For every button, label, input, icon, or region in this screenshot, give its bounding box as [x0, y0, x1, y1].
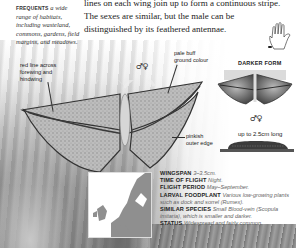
sex-symbol-darker: ♂♀ [250, 114, 261, 123]
leader-line-pinkish-edge [172, 137, 185, 138]
fact-row: SIMILAR SPECIES Small Blood-vein (Scopul… [160, 206, 296, 220]
fact-key: WINGSPAN [160, 170, 192, 176]
intro-line: The sexes are similar, but the male can … [84, 10, 296, 23]
fact-value: 3–3.5cm. [193, 170, 216, 176]
field-guide-page: lines on each wing join up to form a con… [0, 0, 296, 248]
fact-key: TIME OF FLIGHT [160, 177, 207, 183]
darker-form-moth-image [216, 64, 294, 114]
label-red-line: red line across forewing and hindwing [20, 62, 64, 82]
species-facts: WINGSPAN 3–3.5cm. TIME OF FLIGHT Night. … [160, 170, 296, 228]
fact-key: STATUS [160, 220, 182, 226]
fact-key: FLIGHT PERIOD [160, 184, 205, 190]
fact-value: May–September. [207, 184, 249, 190]
habitat-note: FREQUENTS a wide range of habitats, incl… [16, 4, 80, 47]
fact-value: Widespread and fairly common. [184, 220, 263, 226]
larva-image [220, 138, 294, 154]
intro-paragraph: lines on each wing join up to form a con… [84, 0, 296, 36]
fact-key: SIMILAR SPECIES [160, 206, 211, 212]
intro-line: distinguished by its feathered antennae. [84, 23, 296, 36]
fact-row: LARVAL FOODPLANT Various low-growing pla… [160, 192, 296, 206]
intro-line: lines on each wing join up to form a con… [84, 0, 296, 10]
sex-symbol-main: ♂♀ [136, 62, 147, 71]
fact-value: Night. [208, 177, 223, 183]
blood-vein-moth-image [20, 80, 205, 180]
label-pinkish-edge: pinkish outer edge [186, 133, 216, 147]
fact-row: FLIGHT PERIOD May–September. [160, 184, 296, 191]
fact-row: WINGSPAN 3–3.5cm. [160, 170, 296, 177]
europe-distribution-map [88, 172, 152, 238]
label-pale-buff: pale buff ground colour [174, 50, 214, 64]
fact-row: STATUS Widespread and fairly common. [160, 220, 296, 227]
scale-moth-marker [268, 46, 272, 48]
fact-key: LARVAL FOODPLANT [160, 192, 221, 198]
habitat-lead: FREQUENTS [16, 5, 49, 11]
larva-length-label: up to 2.5cm long [238, 131, 282, 137]
fact-row: TIME OF FLIGHT Night. [160, 177, 296, 184]
